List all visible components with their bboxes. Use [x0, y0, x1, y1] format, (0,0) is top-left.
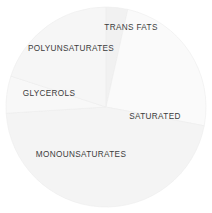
pie-slice-group [6, 7, 206, 207]
pie-chart: TRANS FATSSATURATEDMONOUNSATURATESGLYCER… [0, 0, 212, 213]
pie-label-monounsaturates: MONOUNSATURATES [36, 151, 126, 159]
pie-label-glycerols: GLYCEROLS [23, 90, 76, 98]
pie-label-saturated: SATURATED [129, 113, 181, 121]
pie-label-polyunsaturates: POLYUNSATURATES [28, 45, 114, 53]
pie-label-trans-fats: TRANS FATS [104, 24, 157, 32]
